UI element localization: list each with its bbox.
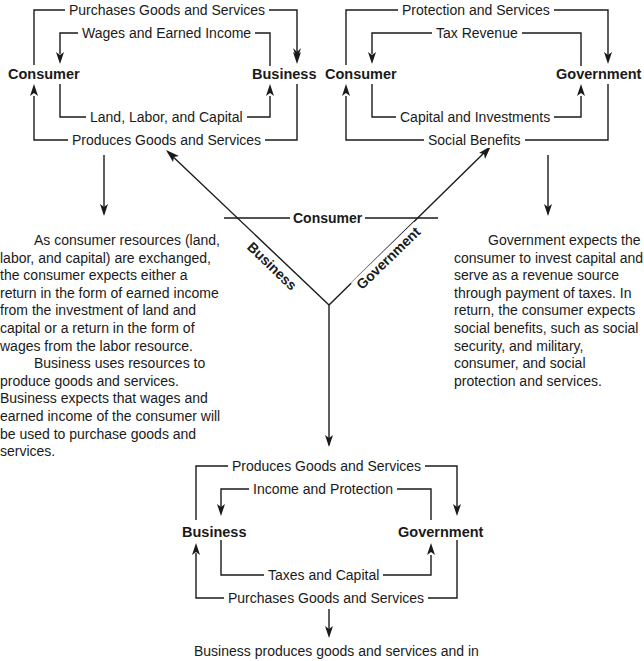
consumer-government-description: Government expects the consumer to inves…	[454, 232, 644, 390]
node-business-2: Business	[182, 524, 246, 540]
y-arm-label-consumer: Consumer	[290, 210, 365, 226]
flow-label-land-labor-capital: Land, Labor, and Capital	[86, 109, 247, 125]
flow-label-purchases-goods-2: Purchases Goods and Services	[224, 590, 428, 606]
flow-label-capital-investments: Capital and Investments	[396, 109, 554, 125]
consumer-business-description: As consumer resources (land, labor, and …	[0, 232, 225, 461]
flow-label-wages-income: Wages and Earned Income	[78, 25, 255, 41]
business-government-description: Business produces goods and services and…	[194, 643, 494, 661]
node-consumer-2: Consumer	[325, 66, 397, 82]
flow-label-taxes-capital: Taxes and Capital	[264, 567, 383, 583]
flow-label-produces-goods: Produces Goods and Services	[68, 132, 265, 148]
flow-label-produces-goods-2: Produces Goods and Services	[228, 458, 425, 474]
flow-label-protection-services: Protection and Services	[398, 2, 554, 18]
node-government-2: Government	[398, 524, 483, 540]
node-consumer: Consumer	[8, 66, 80, 82]
flow-label-income-protection: Income and Protection	[249, 481, 397, 497]
node-government: Government	[556, 66, 641, 82]
flow-label-tax-revenue: Tax Revenue	[432, 25, 522, 41]
flow-label-social-benefits: Social Benefits	[424, 132, 525, 148]
node-business: Business	[252, 66, 316, 82]
flow-label-purchases-goods: Purchases Goods and Services	[65, 2, 269, 18]
